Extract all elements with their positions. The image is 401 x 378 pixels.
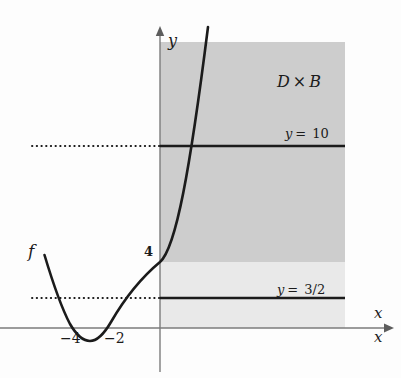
line-label-y-10-rhs: 10 [312,126,329,141]
line-label-y-10-lhs: y [285,126,292,141]
region-label-b: B [309,72,321,91]
line-label-y-3-2-rhs: 3/2 [304,282,325,297]
x-axis-label: x [374,306,382,321]
line-label-y-3-2-lhs: y [277,282,284,297]
curve-label-f: f [28,243,34,260]
y-axis-arrowhead [156,26,164,36]
line-label-y-10-operator: = [295,126,306,141]
line-label-y-3-2: y=3/2 [277,283,328,296]
region-label-times-symbol: × [293,72,306,91]
line-label-y-3-2-operator: = [287,282,298,297]
plot-canvas [0,0,401,378]
x-tick-label-minus-2: −2 [104,331,125,345]
y-axis-label: y [168,33,177,49]
x-tick-label-minus-4: −4 [60,331,81,345]
region-label-d: D [277,72,290,91]
region-label-d-cross-b: D×B [277,74,321,90]
x-axis-arrowhead [384,324,394,333]
y-tick-label-4: 4 [144,245,153,258]
x-axis-label-duplicate: x [374,330,382,345]
function-graph-figure: f y x x 4 −4 −2 D×B y=10 y=3/2 [0,0,401,378]
line-label-y-10: y=10 [285,127,332,140]
